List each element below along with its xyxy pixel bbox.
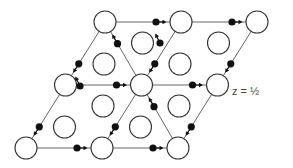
displaced-atom (149, 60, 158, 72)
interior-atom-circle (208, 32, 230, 54)
lattice-node-circle (94, 11, 116, 33)
displaced-atom (149, 98, 158, 111)
arrowhead-icon (123, 83, 127, 87)
lattice-node-circle (91, 137, 113, 159)
lattice-node-circle (246, 11, 268, 33)
lattice-node-circle (170, 11, 192, 33)
displaced-atom (155, 34, 163, 47)
arrowhead-icon (163, 20, 167, 24)
displaced-atom (112, 35, 121, 48)
displaced-atom (186, 123, 195, 135)
displaced-atom (110, 123, 119, 135)
displaced-atom (152, 18, 166, 25)
arrowhead-icon (199, 83, 203, 87)
displaced-atom (34, 123, 43, 135)
interior-atom-circle (92, 95, 114, 117)
lattice-node-circle (15, 137, 37, 159)
lattice-node-circle (55, 74, 77, 96)
lattice-node-circle (207, 74, 229, 96)
arrowhead-icon (160, 146, 164, 150)
interior-atom-circle (168, 95, 190, 117)
displaced-atom (113, 81, 127, 88)
displaced-atom (149, 144, 163, 151)
displaced-atom (189, 81, 203, 88)
z-height-label: z = ½ (232, 85, 259, 97)
interior-atom-circle (93, 53, 115, 75)
interior-atom-circle (169, 53, 191, 75)
displaced-atom (73, 144, 87, 151)
interior-atom-circle (130, 116, 152, 138)
interior-atom-circle (132, 32, 154, 54)
displaced-atom (73, 60, 82, 72)
displaced-atom (225, 60, 234, 72)
interior-atom-circle (54, 116, 76, 138)
lattice-diagram (0, 0, 293, 168)
arrowhead-icon (239, 20, 243, 24)
lattice-node-circle (131, 74, 153, 96)
displaced-atom (228, 18, 242, 25)
lattice-node-circle (167, 137, 189, 159)
arrowhead-icon (84, 146, 88, 150)
